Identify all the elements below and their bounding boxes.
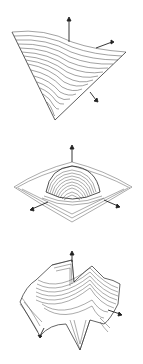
wireframe-mesh — [14, 162, 132, 222]
wireframe-mesh — [12, 31, 126, 116]
surface-plot-2 — [0, 130, 143, 240]
wireframe-mesh — [20, 260, 118, 350]
axis-arrows — [30, 145, 120, 211]
surface-plot-3 — [0, 240, 143, 364]
surface-plot-1 — [0, 0, 143, 130]
axis-arrows — [38, 251, 122, 338]
